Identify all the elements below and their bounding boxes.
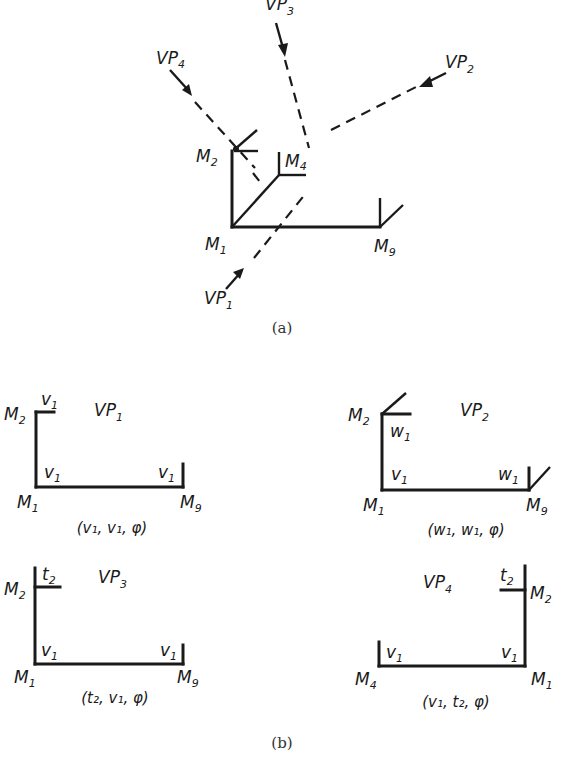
label-m1: M1: [531, 669, 553, 692]
label-vp4: VP4: [156, 48, 185, 71]
view-vp1: M2 v1 VP1 v1 v1 M1 M9 (v₁, v₁, φ): [4, 389, 202, 537]
label-vp: VP4: [423, 572, 452, 596]
tuple: (v₁, v₁, φ): [77, 519, 147, 537]
label-vp3: VP3: [265, 0, 294, 18]
label-m2: M2: [4, 579, 26, 602]
tag-right: v1: [158, 462, 175, 485]
label-m4: M4: [285, 151, 307, 173]
label-m2: M2: [4, 404, 26, 427]
label-m1: M1: [17, 492, 39, 515]
tag-corner: v1: [501, 642, 518, 665]
view-vp2: M2 w1 VP2 v1 w1 M1 M9 (w₁, w₁, φ): [348, 393, 550, 539]
label-m2: M2: [530, 583, 552, 606]
caption-b: (b): [271, 734, 292, 752]
label-m9: M9: [177, 667, 199, 690]
label-m1: M1: [363, 495, 385, 518]
view-vp3: M2 t2 VP3 v1 v1 M1 M9 (t₂, v₁, φ): [4, 564, 199, 707]
ray-vp4-tail: [253, 173, 260, 182]
arrow-vp4: [170, 70, 192, 96]
arrow-vp3: [276, 23, 288, 57]
tag-corner: v1: [41, 640, 58, 663]
tag-left: v1: [386, 642, 403, 665]
view-vp4: M2 t2 VP4 v1 v1 M4 M1 (v₁, t₂, φ): [355, 565, 553, 711]
edge-m1-m4: [232, 175, 279, 227]
label-m2: M2: [348, 405, 370, 428]
tag-corner: v1: [44, 462, 61, 485]
panel-b: M2 v1 VP1 v1 v1 M1 M9 (v₁, v₁, φ) M2 w1 …: [4, 389, 553, 752]
label-m9: M9: [526, 495, 548, 518]
tag-top: w1: [390, 421, 411, 444]
label-vp: VP3: [98, 567, 127, 591]
figure: M1 M2 M4 M9 VP1 VP2 VP3 VP4 (a) M2 v1 VP…: [0, 0, 565, 765]
label-vp2: VP2: [445, 52, 474, 76]
panel-a: M1 M2 M4 M9 VP1 VP2 VP3 VP4 (a): [156, 0, 474, 337]
label-vp: VP2: [460, 400, 489, 424]
m9-tick-diagonal: [380, 205, 403, 227]
label-m9: M9: [180, 492, 202, 515]
label-m4: M4: [355, 669, 377, 692]
tag-corner: v1: [391, 464, 408, 487]
arrow-vp2: [419, 73, 446, 87]
label-m1: M1: [14, 667, 36, 690]
label-m1: M1: [205, 234, 227, 257]
tag-right: v1: [160, 640, 177, 663]
tag-right: w1: [498, 464, 519, 487]
ray-vp3: [285, 60, 309, 148]
tuple: (w₁, w₁, φ): [427, 521, 504, 539]
tag-top: t2: [500, 565, 514, 588]
label-vp1: VP1: [204, 288, 233, 312]
label-m9: M9: [374, 236, 396, 259]
tuple: (v₁, t₂, φ): [422, 693, 489, 711]
label-m2: M2: [196, 146, 218, 169]
arrow-vp1: [226, 268, 244, 289]
tuple: (t₂, v₁, φ): [81, 689, 148, 707]
tag-top: v1: [41, 389, 58, 412]
ray-vp2: [331, 86, 418, 130]
caption-a: (a): [272, 319, 293, 337]
label-vp: VP1: [94, 400, 123, 424]
tag-top: t2: [42, 564, 56, 587]
